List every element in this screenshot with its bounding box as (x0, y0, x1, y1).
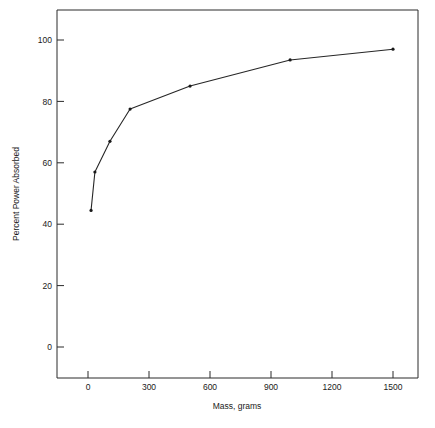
x-tick-label-0: 0 (86, 382, 91, 392)
x-tick-label-300: 300 (142, 382, 156, 392)
x-tick-label-1500: 1500 (384, 382, 403, 392)
data-point-207g (128, 107, 131, 110)
y-axis-title: Percent Power Absorbed (11, 147, 21, 241)
x-tick-label-900: 900 (264, 382, 278, 392)
data-point-994g (289, 58, 292, 61)
data-point-502g (188, 84, 191, 87)
x-tick-label-600: 600 (203, 382, 217, 392)
y-tick-label-20: 20 (43, 281, 53, 291)
y-tick-label-80: 80 (43, 97, 53, 107)
line-chart: 020406080100 030060090012001500 Mass, gr… (0, 0, 435, 428)
x-axis-title: Mass, grams (213, 401, 262, 411)
x-tick-label-1200: 1200 (323, 382, 342, 392)
data-point-34g (93, 170, 96, 173)
y-tick-label-100: 100 (38, 35, 52, 45)
chart-figure: 020406080100 030060090012001500 Mass, gr… (0, 0, 435, 428)
y-tick-label-0: 0 (47, 342, 52, 352)
chart-background (0, 0, 435, 428)
y-tick-label-60: 60 (43, 158, 53, 168)
y-tick-label-40: 40 (43, 219, 53, 229)
data-point-15g (89, 209, 92, 212)
data-point-1500g (391, 48, 394, 51)
data-point-108g (108, 140, 111, 143)
